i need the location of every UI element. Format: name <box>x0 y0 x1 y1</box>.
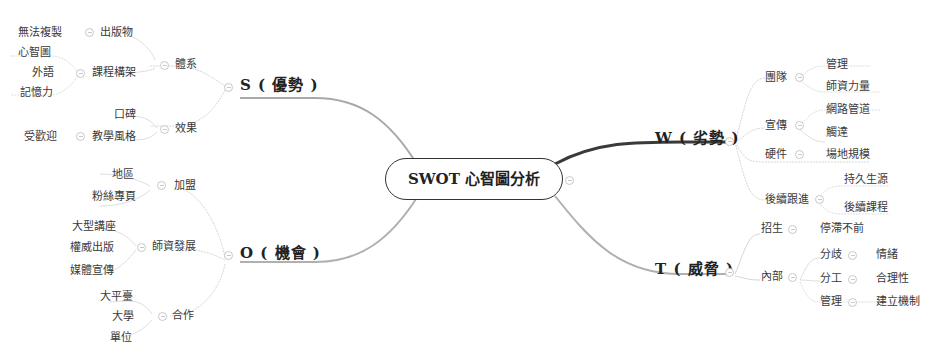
t-management-toggle-icon[interactable] <box>848 298 857 307</box>
s-effect-toggle-icon[interactable] <box>160 125 169 134</box>
s-teaching-style-toggle-icon[interactable] <box>76 132 85 141</box>
s-memory-node[interactable]: 記憶力 <box>20 86 53 100</box>
s-system-node[interactable]: 體系 <box>175 58 197 72</box>
t-division-node[interactable]: 分工 <box>820 272 842 286</box>
t-enrollment-toggle-icon[interactable] <box>788 225 797 234</box>
s-course-framework-toggle-icon[interactable] <box>76 69 85 78</box>
s-system-toggle-icon[interactable] <box>160 61 169 70</box>
s-reputation-node[interactable]: 口碑 <box>114 108 136 122</box>
w-promotion-node[interactable]: 宣傳 <box>765 119 787 133</box>
t-enrollment-node[interactable]: 招生 <box>761 222 783 236</box>
t-disagreement-toggle-icon[interactable] <box>848 251 857 260</box>
root-collapse-toggle-icon[interactable] <box>565 176 574 185</box>
branch-w-collapse-toggle-icon[interactable] <box>725 137 734 146</box>
s-language-node[interactable]: 外語 <box>32 66 54 80</box>
branch-t-node[interactable]: T ( 威脅 ) <box>655 262 734 276</box>
o-authority-publish-node[interactable]: 權威出版 <box>70 241 114 255</box>
t-rationality-node[interactable]: 合理性 <box>876 272 909 286</box>
s-publications-node[interactable]: 出版物 <box>100 26 133 40</box>
o-university-node[interactable]: 大學 <box>112 310 134 324</box>
t-internal-toggle-icon[interactable] <box>788 273 797 282</box>
w-team-node[interactable]: 團隊 <box>765 71 787 85</box>
o-teacher-development-node[interactable]: 師資發展 <box>152 240 196 254</box>
w-online-channel-node[interactable]: 網路管道 <box>826 103 870 117</box>
s-popular-node[interactable]: 受歡迎 <box>24 130 57 144</box>
o-cooperation-toggle-icon[interactable] <box>158 312 167 321</box>
root-node[interactable]: SWOT 心智圖分析 <box>385 158 563 200</box>
o-cooperation-node[interactable]: 合作 <box>172 309 194 323</box>
s-course-framework-node[interactable]: 課程構架 <box>92 66 136 80</box>
o-franchise-toggle-icon[interactable] <box>157 181 166 190</box>
w-team-toggle-icon[interactable] <box>795 73 804 82</box>
w-hardware-node[interactable]: 硬件 <box>765 148 787 162</box>
w-followup-node[interactable]: 後續跟進 <box>765 193 809 207</box>
branch-s-node[interactable]: S ( 優勢 ) <box>240 78 319 92</box>
mind-map-canvas: SWOT 心智圖分析 S ( 優勢 ) 體系 出版物 無法複製 課程構架 心智圖… <box>0 0 947 362</box>
s-uncopyable-node[interactable]: 無法複製 <box>18 26 62 40</box>
cropped-caption <box>330 352 630 362</box>
o-fanpage-node[interactable]: 粉絲專頁 <box>92 190 136 204</box>
o-platform-node[interactable]: 大平臺 <box>100 290 133 304</box>
w-followup-courses-node[interactable]: 後續課程 <box>844 201 888 215</box>
o-franchise-node[interactable]: 加盟 <box>174 179 196 193</box>
s-mindmap-node[interactable]: 心智圖 <box>18 46 51 60</box>
t-stagnation-node[interactable]: 停滯不前 <box>820 222 864 236</box>
t-disagreement-node[interactable]: 分歧 <box>820 248 842 262</box>
s-effect-node[interactable]: 效果 <box>175 122 197 136</box>
w-hardware-toggle-icon[interactable] <box>795 150 804 159</box>
o-organization-node[interactable]: 單位 <box>110 331 132 345</box>
w-followup-toggle-icon[interactable] <box>815 195 824 204</box>
t-internal-node[interactable]: 內部 <box>761 270 783 284</box>
branch-t-collapse-toggle-icon[interactable] <box>725 268 734 277</box>
branch-o-node[interactable]: O ( 機會 ) <box>240 246 321 260</box>
t-mechanism-node[interactable]: 建立機制 <box>876 295 920 309</box>
w-venue-scale-node[interactable]: 場地規模 <box>826 148 870 162</box>
w-reach-node[interactable]: 觸達 <box>826 126 848 140</box>
s-publications-toggle-icon[interactable] <box>85 28 94 37</box>
o-region-node[interactable]: 地區 <box>112 168 134 182</box>
w-management-node[interactable]: 管理 <box>826 58 848 72</box>
t-division-toggle-icon[interactable] <box>848 275 857 284</box>
branch-s-collapse-toggle-icon[interactable] <box>224 83 233 92</box>
s-teaching-style-node[interactable]: 教學風格 <box>92 130 136 144</box>
branch-o-collapse-toggle-icon[interactable] <box>224 251 233 260</box>
w-promotion-toggle-icon[interactable] <box>795 121 804 130</box>
t-management-node[interactable]: 管理 <box>820 295 842 309</box>
o-media-promotion-node[interactable]: 媒體宣傳 <box>70 264 114 278</box>
w-lasting-students-node[interactable]: 持久生源 <box>844 173 888 187</box>
t-emotion-node[interactable]: 情緒 <box>876 248 898 262</box>
w-faculty-node[interactable]: 師資力量 <box>826 80 870 94</box>
o-teacher-development-toggle-icon[interactable] <box>137 243 146 252</box>
o-lecture-node[interactable]: 大型講座 <box>72 220 116 234</box>
